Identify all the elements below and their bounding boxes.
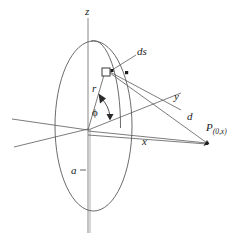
ds-to-yaxis-line — [110, 72, 181, 110]
radius-label: r — [92, 83, 96, 94]
negative-x-axis-line — [14, 129, 88, 147]
z-axis-label: z — [85, 6, 89, 17]
point-p-subscript: (0,x) — [213, 127, 227, 136]
point-p-letter: P — [206, 121, 213, 133]
ds-marker-near-dot — [111, 69, 114, 72]
physics-diagram: z ds r ϕ y d x a P(0,x) — [0, 0, 242, 242]
loop-radius-label: a — [71, 165, 77, 176]
x-axis-line-lower — [88, 135, 207, 144]
distance-vector-line — [110, 73, 207, 143]
ds-element-label: ds — [137, 46, 147, 57]
ds-marker-far-dot — [125, 71, 128, 74]
phi-arc-arrowhead-lower — [107, 114, 114, 121]
negative-y-axis-line — [12, 119, 88, 130]
ds-element-square — [102, 68, 110, 76]
y-axis-label: y — [174, 91, 179, 102]
distance-label: d — [187, 111, 193, 122]
point-p-label: P(0,x) — [206, 122, 227, 136]
point-p-marker — [205, 142, 208, 145]
x-axis-label: x — [142, 136, 147, 147]
phi-angle-label: ϕ — [92, 107, 98, 118]
x-axis-line-upper — [88, 131, 207, 143]
ds-leader-line — [112, 55, 136, 70]
